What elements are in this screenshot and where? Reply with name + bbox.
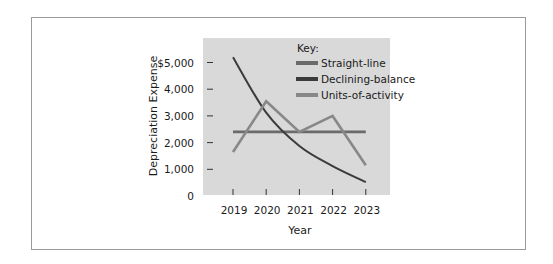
legend-swatch-straight-line — [296, 61, 318, 65]
x-tick-label: 2023 — [353, 204, 380, 216]
x-tick-label: 2019 — [221, 204, 248, 216]
x-tick-label: 2021 — [287, 204, 314, 216]
y-tick-label: $5,000 — [157, 57, 194, 69]
legend-swatch-declining-balance — [296, 77, 318, 81]
legend-swatch-units-of-activity — [296, 93, 318, 97]
y-axis-title: Depreciation Expense — [147, 56, 160, 177]
legend-title: Key: — [297, 42, 319, 54]
y-tick-label: 4,000 — [164, 83, 194, 95]
x-tick-label: 2020 — [254, 204, 281, 216]
legend-label-declining-balance: Declining-balance — [321, 73, 415, 85]
legend-label-units-of-activity: Units-of-activity — [321, 89, 404, 101]
legend-label-straight-line: Straight-line — [321, 57, 386, 69]
y-tick-label: 2,000 — [164, 137, 194, 149]
y-tick-label: 1,000 — [164, 163, 194, 175]
y-tick-label: 0 — [187, 190, 194, 202]
x-axis-title: Year — [287, 224, 312, 237]
x-tick-label: 2022 — [320, 204, 347, 216]
depreciation-line-chart: 01,0002,0003,0004,000$5,000 201920202021… — [0, 0, 553, 264]
y-tick-label: 3,000 — [164, 110, 194, 122]
